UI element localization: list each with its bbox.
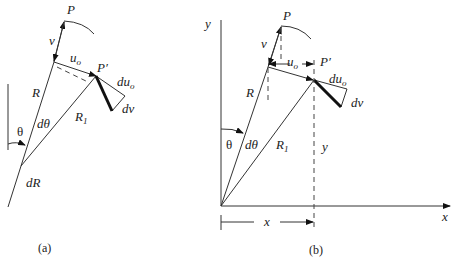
arc-at-P xyxy=(64,21,94,34)
dashed-chord xyxy=(57,67,88,82)
label-dtheta: dθ xyxy=(245,137,259,152)
theta-arc xyxy=(221,129,243,133)
figure-a: P v uo P′ duo dv R R1 dθ θ dR (a) xyxy=(8,2,135,255)
label-y-dim: y xyxy=(320,139,328,154)
label-u-o: uo xyxy=(70,50,82,67)
label-dtheta: dθ xyxy=(37,116,51,131)
label-du-o: duo xyxy=(117,74,135,91)
label-dv: dv xyxy=(351,95,364,110)
diagram-canvas: P v uo P′ duo dv R R1 dθ θ dR (a) xyxy=(0,0,458,264)
v-vector-down xyxy=(269,27,281,65)
label-x-dim: x xyxy=(263,214,270,229)
label-P-prime: P′ xyxy=(319,54,331,69)
theta-arc xyxy=(8,143,25,145)
v-vector-down xyxy=(54,22,64,61)
arc-at-P xyxy=(281,26,311,39)
label-du-o: duo xyxy=(329,71,347,88)
label-P: P xyxy=(66,2,75,17)
caption-a: (a) xyxy=(38,241,51,255)
label-R1: R1 xyxy=(74,109,87,126)
label-dR: dR xyxy=(26,175,41,190)
label-R: R xyxy=(245,85,254,100)
label-v: v xyxy=(49,33,55,48)
figure-b: y P v uo P′ duo dv R R1 dθ θ y x x (b) xyxy=(203,8,450,257)
label-P-prime: P′ xyxy=(96,60,108,75)
label-v: v xyxy=(261,36,267,51)
label-P: P xyxy=(282,8,291,23)
label-dv: dv xyxy=(122,101,135,116)
label-y-axis: y xyxy=(203,16,211,31)
caption-b: (b) xyxy=(309,243,323,257)
label-x-axis: x xyxy=(441,209,448,224)
label-u-o: uo xyxy=(287,54,299,71)
dv-closing-segment xyxy=(341,89,347,107)
label-R1: R1 xyxy=(275,137,288,154)
label-theta: θ xyxy=(17,124,23,139)
label-theta: θ xyxy=(226,137,232,152)
label-R: R xyxy=(31,85,40,100)
